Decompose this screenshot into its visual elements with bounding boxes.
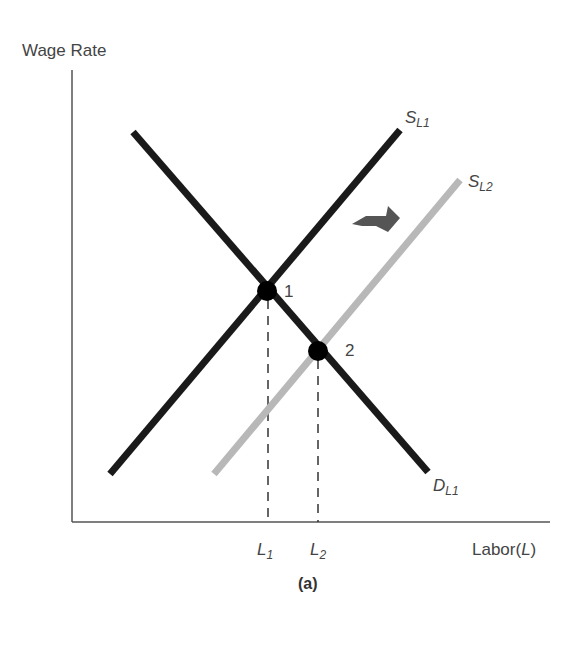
x-tick-l2: L2	[310, 540, 326, 562]
equilibrium-point-2	[308, 341, 328, 361]
x-axis-label: Labor(L)	[472, 540, 536, 560]
dl1-label: DL1	[433, 476, 459, 498]
sl1-label: SL1	[405, 108, 430, 130]
shift-arrow-icon	[352, 206, 400, 232]
equilibrium-point-1	[257, 281, 277, 301]
x-tick-l1: L1	[257, 540, 273, 562]
demand-curve-dl1	[133, 132, 428, 472]
point-2-label: 2	[345, 341, 354, 361]
panel-label: (a)	[298, 575, 318, 593]
y-axis-label: Wage Rate	[22, 41, 106, 61]
sl2-label: SL2	[468, 172, 493, 194]
supply-curve-sl2	[214, 180, 460, 474]
point-1-label: 1	[284, 282, 293, 302]
